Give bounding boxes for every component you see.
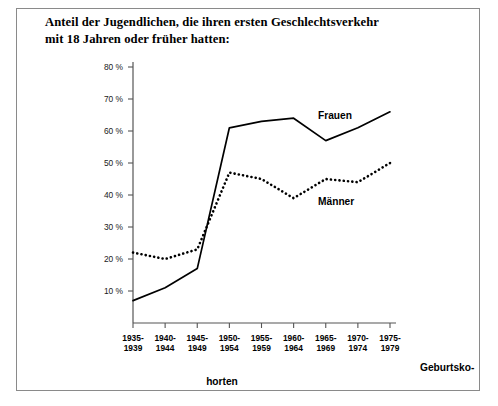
x-axis-tick-label: 1944 (156, 343, 175, 353)
x-axis-tick-label: 1949 (188, 343, 207, 353)
x-axis-tick-label: 1960- (283, 333, 305, 343)
x-axis-tick-label: 1964 (284, 343, 303, 353)
y-axis-tick-label: 60 % (104, 126, 124, 136)
y-axis-tick-label: 70 % (104, 94, 124, 104)
x-axis-caption-top: Geburtsko- (420, 362, 474, 373)
x-axis-tick-label: 1950- (219, 333, 241, 343)
y-axis: 10 %20 %30 %40 %50 %60 %70 %80 % (104, 62, 133, 323)
series-label-frauen: Frauen (318, 110, 352, 121)
x-axis-tick-label: 1979 (381, 343, 400, 353)
axis-captions: Geburtsko-horten (206, 362, 474, 387)
series-line-männer (133, 163, 390, 259)
y-axis-tick-label: 10 % (104, 286, 124, 296)
x-axis-tick-label: 1955- (251, 333, 273, 343)
x-axis-tick-label: 1970- (347, 333, 369, 343)
x-axis-tick-label: 1974 (349, 343, 368, 353)
x-axis-tick-label: 1945- (187, 333, 209, 343)
series-label-männer: Männer (318, 196, 354, 207)
x-axis-tick-label: 1939 (124, 343, 143, 353)
y-axis-tick-label: 30 % (104, 222, 124, 232)
x-axis-caption-bottom: horten (206, 376, 238, 387)
x-axis-tick-label: 1959 (252, 343, 271, 353)
series-annotations: FrauenMänner (318, 110, 354, 207)
plot-area: 10 %20 %30 %40 %50 %60 %70 %80 % 1935-19… (0, 0, 498, 406)
y-axis-tick-label: 40 % (104, 190, 124, 200)
x-axis-tick-label: 1969 (316, 343, 335, 353)
y-axis-tick-label: 80 % (104, 62, 124, 72)
y-axis-tick-label: 50 % (104, 158, 124, 168)
line-chart-svg: 10 %20 %30 %40 %50 %60 %70 %80 % 1935-19… (0, 0, 498, 406)
x-axis-tick-label: 1954 (220, 343, 239, 353)
y-axis-tick-label: 20 % (104, 254, 124, 264)
x-axis-tick-label: 1965- (315, 333, 337, 343)
x-axis: 1935-19391940-19441945-19491950-19541955… (122, 323, 401, 353)
x-axis-tick-label: 1940- (154, 333, 176, 343)
x-axis-tick-label: 1975- (379, 333, 401, 343)
screenshot-root: Anteil der Jugendlichen, die ihren erste… (0, 0, 498, 406)
x-axis-tick-label: 1935- (122, 333, 144, 343)
